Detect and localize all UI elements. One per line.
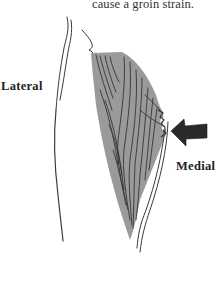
pelvic-outline [82, 30, 93, 54]
lateral-thigh-outline [55, 17, 72, 241]
lateral-label: Lateral [1, 79, 43, 94]
adductor-muscle [91, 52, 166, 240]
medial-label: Medial [176, 159, 215, 174]
groin-muscle-illustration [0, 0, 221, 286]
arrow-left-icon [171, 119, 207, 146]
